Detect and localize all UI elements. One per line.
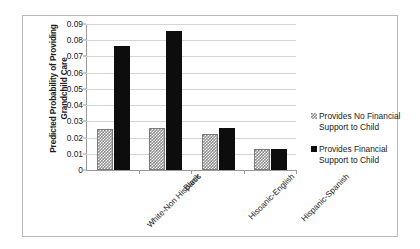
legend-item-support[interactable]: Provides FinancialSupport to Child (311, 144, 419, 166)
y-axis-tick-label: 0.01 (67, 149, 83, 159)
bar-group (140, 24, 193, 170)
bar-group (87, 24, 140, 170)
bar[interactable] (97, 129, 113, 170)
bar[interactable] (219, 128, 235, 170)
bar[interactable] (166, 31, 182, 170)
y-axis-tick-label: 0.05 (67, 84, 83, 94)
bar-group (192, 24, 245, 170)
y-axis-tick-label: 0.06 (67, 68, 83, 78)
bar[interactable] (254, 149, 270, 170)
y-axis-tick-label: 0.03 (67, 116, 83, 126)
legend-item-no-support[interactable]: Provides No FinancialSupport to Child (311, 111, 419, 133)
bars-layer (87, 24, 296, 170)
chart-legend: Provides No FinancialSupport to Child Pr… (311, 111, 419, 177)
y-axis-tick-mark (83, 105, 86, 106)
y-axis-tick-mark (83, 56, 86, 57)
y-axis-tick-mark (83, 170, 86, 171)
bar[interactable] (271, 149, 287, 170)
bar-group (245, 24, 298, 170)
y-axis-tick-label: 0.02 (67, 133, 83, 143)
category-label: Hispanic-Spanish (300, 172, 351, 223)
y-axis-tick-mark (83, 24, 86, 25)
legend-item-no-support-label: Provides No FinancialSupport to Child (319, 111, 400, 133)
bar[interactable] (149, 128, 165, 170)
legend-item-support-label: Provides FinancialSupport to Child (319, 144, 387, 166)
y-axis-tick-mark (83, 72, 86, 73)
y-axis-tick-mark (83, 88, 86, 89)
y-axis-tick-label: 0.04 (67, 100, 83, 110)
y-axis-tick-mark (83, 137, 86, 138)
y-axis-tick-label: 0.08 (67, 35, 83, 45)
x-axis-category-labels: White-Non HispanicBlackHisoanic-EnglishH… (86, 172, 301, 238)
y-axis-tick-label: 0.07 (67, 51, 83, 61)
category-label: Hisoanic-English (247, 172, 296, 221)
y-axis-tick-mark (83, 40, 86, 41)
y-axis-tick-label: 0.09 (67, 19, 83, 29)
chart-frame: Predicted Probability of Providing Grand… (22, 15, 398, 237)
solid-square-icon (311, 146, 317, 152)
bar[interactable] (114, 46, 130, 170)
hatched-square-icon (311, 113, 317, 119)
plot-area: 0.090.080.070.060.050.040.030.020.010 (86, 24, 296, 170)
y-axis-tick-mark (83, 153, 86, 154)
category-label: Black (182, 172, 203, 193)
bar[interactable] (202, 134, 218, 170)
y-axis-tick-mark (83, 121, 86, 122)
